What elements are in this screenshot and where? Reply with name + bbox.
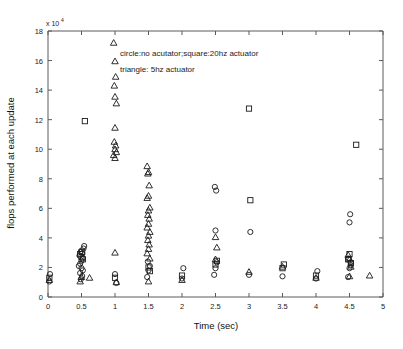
y-axis-title: flops performed at each update bbox=[5, 97, 16, 229]
x-tick-label: 0 bbox=[46, 302, 50, 311]
chart-figure: 00.511.522.533.544.55024681012141618 x 1… bbox=[0, 0, 403, 349]
x-tick-label: 4.5 bbox=[344, 302, 354, 311]
y-tick-label: 6 bbox=[39, 204, 43, 213]
y-tick-label: 16 bbox=[35, 57, 43, 66]
x-axis-title: Time (sec) bbox=[194, 320, 239, 331]
x-tick-label: 3 bbox=[247, 302, 251, 311]
y-tick-label: 2 bbox=[39, 263, 43, 272]
y-tick-label: 12 bbox=[35, 116, 43, 125]
y-axis-exponent-value: 4 bbox=[61, 17, 64, 23]
x-tick-label: 5 bbox=[381, 302, 385, 311]
x-tick-label: 2.5 bbox=[210, 302, 220, 311]
legend-line-2: triangle: 5hz actuator bbox=[120, 65, 195, 74]
x-tick-label: 3.5 bbox=[277, 302, 287, 311]
x-tick-label: 1 bbox=[113, 302, 117, 311]
x-tick-label: 0.5 bbox=[76, 302, 86, 311]
x-tick-label: 4 bbox=[314, 302, 318, 311]
legend-line-1: circle:no acutator;square:20hz actuator bbox=[120, 49, 259, 58]
y-tick-label: 10 bbox=[35, 145, 43, 154]
y-axis-exponent-label: x 10 bbox=[46, 20, 59, 27]
y-tick-label: 18 bbox=[35, 27, 43, 36]
x-tick-label: 2 bbox=[180, 302, 184, 311]
x-tick-label: 1.5 bbox=[143, 302, 153, 311]
y-tick-label: 4 bbox=[39, 234, 43, 243]
y-tick-label: 8 bbox=[39, 175, 43, 184]
scatter-plot: 00.511.522.533.544.55024681012141618 x 1… bbox=[0, 0, 403, 349]
y-tick-label: 0 bbox=[39, 293, 43, 302]
y-tick-label: 14 bbox=[35, 86, 43, 95]
